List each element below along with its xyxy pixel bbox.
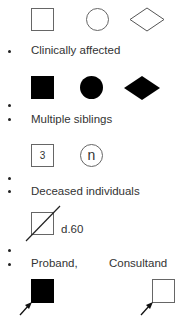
consultand-arrow-icon <box>0 0 192 332</box>
